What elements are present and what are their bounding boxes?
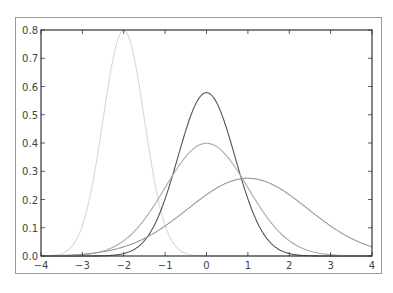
y-tick-label: 0.4 — [22, 138, 38, 149]
y-tick-label: 0.6 — [22, 82, 38, 93]
x-tick-label: 3 — [327, 260, 333, 271]
plot-curves — [41, 31, 372, 256]
y-tick-label: 0.2 — [22, 195, 38, 206]
series-line-3 — [41, 178, 372, 256]
y-axis-ticks: 0.00.10.20.30.40.50.60.70.8 — [22, 25, 372, 262]
line-chart: −4−3−2−101234 0.00.10.20.30.40.50.60.70.… — [0, 0, 393, 293]
x-tick-label: −3 — [75, 260, 90, 271]
y-tick-label: 0.3 — [22, 166, 38, 177]
x-tick-label: −2 — [116, 260, 131, 271]
x-tick-label: −1 — [158, 260, 173, 271]
y-tick-label: 0.0 — [22, 251, 38, 262]
series-line-1 — [41, 93, 372, 256]
series-line-2 — [41, 143, 372, 256]
x-tick-label: 2 — [286, 260, 292, 271]
x-tick-label: 1 — [245, 260, 251, 271]
y-tick-label: 0.7 — [22, 53, 38, 64]
y-tick-label: 0.8 — [22, 25, 38, 36]
y-tick-label: 0.1 — [22, 223, 38, 234]
y-tick-label: 0.5 — [22, 110, 38, 121]
x-tick-label: 4 — [369, 260, 375, 271]
x-axis-ticks: −4−3−2−101234 — [34, 30, 376, 271]
x-tick-label: 0 — [203, 260, 209, 271]
